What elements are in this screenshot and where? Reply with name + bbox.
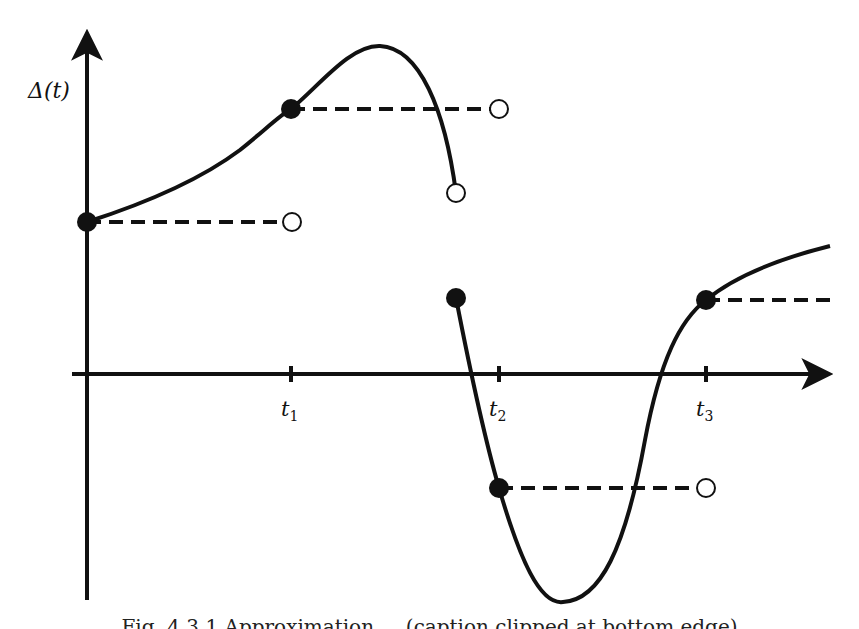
y-axis-label: Δ(t) [27, 78, 70, 103]
tick-label-t1: t1 [281, 397, 298, 424]
tick-label-t2: t2 [489, 397, 506, 424]
open-circle-1 [490, 100, 508, 118]
curve-segment-1 [87, 46, 456, 222]
sample-dot-3 [696, 290, 716, 310]
open-circle-2 [697, 479, 715, 497]
sample-dot-1 [281, 99, 301, 119]
figure-caption: Fig. 4.3.1 Approximation ... (caption cl… [0, 615, 859, 629]
sample-dot-0 [77, 212, 97, 232]
sample-dot-2 [489, 478, 509, 498]
caption-container: Fig. 4.3.1 Approximation ... (caption cl… [0, 611, 859, 629]
sample-dot-2-start [446, 288, 466, 308]
sample-hold-diagram: Δ(t) t1 t2 t3 [0, 0, 859, 629]
open-circle-jump [447, 184, 465, 202]
open-circle-0 [283, 213, 301, 231]
tick-label-t3: t3 [696, 397, 713, 424]
